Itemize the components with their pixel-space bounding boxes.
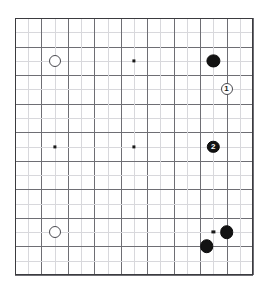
grid-line-horizontal xyxy=(15,189,253,190)
grid-line-horizontal xyxy=(15,218,253,219)
grid-line-vertical xyxy=(253,18,254,275)
screenshot-root: 12 xyxy=(0,0,269,297)
stone-move-number: 2 xyxy=(211,142,215,150)
go-board[interactable]: 12 xyxy=(15,18,253,275)
grid-line-horizontal xyxy=(15,275,253,276)
grid-line-vertical xyxy=(174,18,175,275)
grid-line-horizontal xyxy=(15,204,253,205)
grid-line-vertical xyxy=(147,18,148,275)
grid-line-vertical xyxy=(187,18,188,275)
white-stone[interactable] xyxy=(49,226,61,238)
white-stone[interactable] xyxy=(49,55,61,67)
black-stone[interactable] xyxy=(207,54,220,67)
star-point xyxy=(53,145,56,148)
star-point xyxy=(132,59,135,62)
stone-move-number: 1 xyxy=(224,85,228,93)
grid-line-horizontal xyxy=(15,175,253,176)
grid-line-horizontal xyxy=(15,246,253,247)
star-point xyxy=(212,231,215,234)
grid-line-vertical xyxy=(160,18,161,275)
black-stone[interactable] xyxy=(200,240,214,254)
star-point xyxy=(132,145,135,148)
grid-line-vertical xyxy=(240,18,241,275)
black-stone[interactable] xyxy=(220,225,234,239)
grid-line-horizontal xyxy=(15,261,253,262)
black-stone[interactable]: 2 xyxy=(207,140,219,152)
white-stone[interactable]: 1 xyxy=(221,83,233,95)
grid-line-horizontal xyxy=(15,161,253,162)
grid-line-vertical xyxy=(200,18,201,275)
